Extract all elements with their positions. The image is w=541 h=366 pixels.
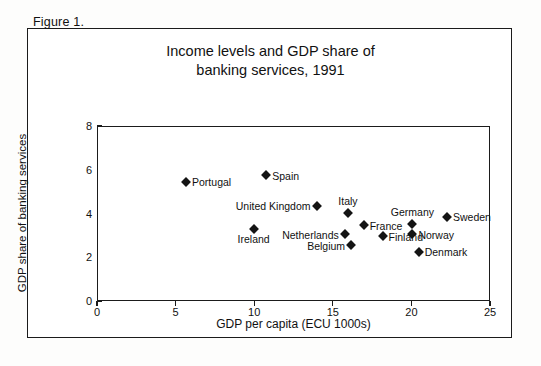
data-point-label: Norway — [418, 229, 454, 240]
data-point-label: Germany — [391, 207, 434, 218]
data-point-label: Belgium — [307, 240, 345, 251]
data-point-marker[interactable] — [346, 240, 356, 250]
data-point-label: Ireland — [238, 234, 270, 245]
data-point-marker[interactable] — [414, 247, 424, 257]
x-axis-title: GDP per capita (ECU 1000s) — [97, 317, 490, 331]
x-tick-label: 5 — [173, 306, 179, 318]
x-tick-label: 0 — [94, 306, 100, 318]
y-tick-label: 0 — [80, 295, 92, 307]
data-point-label: Portugal — [192, 177, 231, 188]
data-point-marker[interactable] — [181, 177, 191, 187]
chart-title-line-1: Income levels and GDP share of — [166, 43, 374, 59]
data-point-marker[interactable] — [442, 212, 452, 222]
y-axis-title: GDP share of banking services — [16, 113, 28, 313]
data-point-marker[interactable] — [343, 208, 353, 218]
data-point-label: Denmark — [425, 247, 468, 258]
data-point-label: United Kingdom — [236, 201, 311, 212]
data-point-marker[interactable] — [340, 229, 350, 239]
y-tick-label: 4 — [80, 208, 92, 220]
chart-title: Income levels and GDP share of banking s… — [28, 42, 513, 80]
figure-caption: Figure 1. — [33, 15, 84, 29]
data-point-marker[interactable] — [378, 231, 388, 241]
x-tick-label: 10 — [248, 306, 260, 318]
data-point-marker[interactable] — [261, 170, 271, 180]
y-tick-label: 6 — [80, 164, 92, 176]
figure-border-box: Income levels and GDP share of banking s… — [27, 28, 512, 338]
figure-page: Figure 1. Income levels and GDP share of… — [0, 0, 541, 366]
data-point-marker[interactable] — [407, 219, 417, 229]
data-point-marker[interactable] — [312, 201, 322, 211]
plot-area: PortugalSpainUnited KingdomItalyFranceGe… — [97, 126, 490, 301]
data-point-label: Spain — [272, 170, 299, 181]
data-point-marker[interactable] — [359, 220, 369, 230]
y-tick-label: 8 — [80, 120, 92, 132]
data-point-label: Finland — [389, 231, 423, 242]
data-point-label: Italy — [338, 196, 357, 207]
chart-title-line-2: banking services, 1991 — [28, 61, 513, 80]
data-point-label: Sweden — [453, 212, 491, 223]
x-tick-label: 15 — [327, 306, 339, 318]
x-tick-label: 25 — [484, 306, 496, 318]
y-tick-label: 2 — [80, 251, 92, 263]
x-tick-label: 20 — [405, 306, 417, 318]
